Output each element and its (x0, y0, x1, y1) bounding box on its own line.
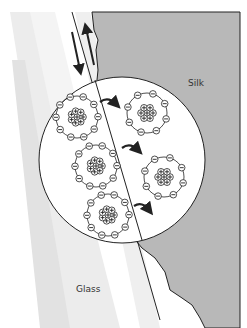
electron-icon (138, 129, 145, 136)
electron-icon (53, 114, 60, 121)
electron-icon (99, 143, 106, 150)
glass-label: Glass (76, 284, 100, 294)
silk-label: Silk (188, 78, 204, 88)
electron-icon (163, 116, 170, 123)
electron-icon (178, 164, 185, 171)
electron-icon (76, 175, 83, 182)
electron-icon (170, 191, 177, 198)
electron-icon (84, 212, 91, 219)
electron-icon (122, 199, 129, 206)
electron-icon (125, 104, 132, 111)
electron-icon (111, 192, 118, 199)
magnified-view-circle (39, 77, 205, 243)
electron-icon (110, 175, 117, 182)
diagram-canvas (0, 0, 247, 328)
electron-icon (88, 224, 95, 231)
electron-icon (126, 119, 133, 126)
electron-icon (114, 162, 121, 169)
electron-icon (150, 91, 157, 98)
proton-icon (147, 105, 154, 112)
proton-icon (108, 207, 115, 214)
electron-icon (57, 126, 64, 133)
electron-icon (88, 200, 95, 207)
electron-icon (98, 232, 105, 239)
proton-icon (77, 109, 84, 116)
electron-icon (155, 193, 162, 200)
electron-icon (122, 224, 129, 231)
arrow-down-icon (72, 32, 80, 70)
electron-icon (67, 134, 74, 141)
electron-icon (67, 94, 74, 101)
electron-icon (86, 183, 93, 190)
electron-icon (86, 143, 93, 150)
electron-icon (153, 127, 160, 134)
electron-icon (167, 155, 174, 162)
electron-icon (72, 163, 79, 170)
electron-icon (111, 232, 118, 239)
electron-icon (57, 102, 64, 109)
proton-icon (96, 158, 103, 165)
electron-icon (134, 92, 141, 99)
electron-icon (142, 168, 149, 175)
electron-icon (91, 126, 98, 133)
electron-icon (151, 156, 158, 163)
electron-icon (161, 100, 168, 107)
electron-icon (180, 180, 187, 187)
electron-icon (143, 183, 150, 190)
electron-icon (76, 151, 83, 158)
electron-icon (91, 101, 98, 108)
electron-icon (95, 113, 102, 120)
electron-icon (126, 211, 133, 218)
electron-icon (98, 192, 105, 199)
electron-icon (110, 150, 117, 157)
electron-icon (80, 94, 87, 101)
electron-icon (99, 183, 106, 190)
proton-icon (164, 169, 171, 176)
electron-icon (80, 134, 87, 141)
